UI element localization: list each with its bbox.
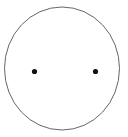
left-dot — [32, 69, 37, 74]
background-rect — [0, 0, 128, 137]
figure-canvas: Circle with two points A large thin-outl… — [0, 0, 128, 137]
diagram-svg — [0, 0, 128, 137]
right-dot — [93, 69, 98, 74]
